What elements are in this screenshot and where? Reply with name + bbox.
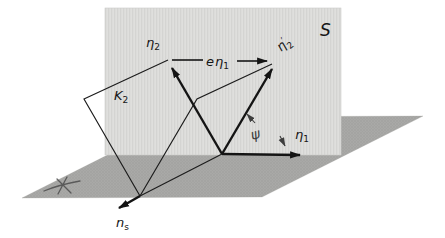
eta1-vector: [222, 154, 300, 155]
shear-plane-s: [105, 8, 341, 155]
plane-s-label: S: [320, 20, 331, 40]
shear-geometry-diagram: S η2 eη1 η′2 K2 ψ η1 ns: [0, 0, 445, 238]
diagram-canvas: S η2 eη1 η′2 K2 ψ η1 ns: [0, 0, 445, 238]
